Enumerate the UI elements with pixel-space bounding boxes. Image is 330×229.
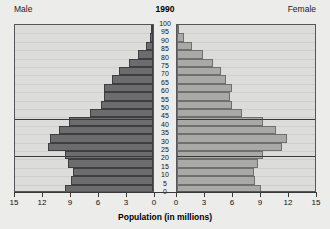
x-tick-mark [70,192,71,197]
bar-female-55-59 [177,92,230,100]
gridline [177,42,315,43]
age-tick-65: 65 [154,79,176,86]
x-tick-mark [176,192,177,197]
bar-female-85-89 [177,42,192,50]
x-tick-left-9: 9 [68,198,72,207]
x-tick-mark [316,192,317,197]
gridline [15,33,153,34]
x-tick-left-0: 0 [152,198,156,207]
bar-female-95-99 [177,25,179,33]
age-tick-10: 10 [154,171,176,178]
age-tick-100: 100 [154,20,176,27]
x-axis-title: Population (in millions) [0,212,330,222]
reference-line-age-44 [15,119,153,120]
x-tick-right-3: 3 [202,198,206,207]
bar-female-5-9 [177,176,255,184]
x-tick-left-15: 15 [10,198,19,207]
age-tick-55: 55 [154,96,176,103]
age-tick-60: 60 [154,87,176,94]
population-pyramid-figure: Male 1990 Female 10095908580757065605550… [0,0,330,229]
x-tick-mark [232,192,233,197]
age-tick-95: 95 [154,28,176,35]
bar-male-50-54 [101,101,153,109]
bar-male-95-99 [151,25,153,33]
x-tick-right-9: 9 [258,198,262,207]
bar-male-85-89 [146,42,153,50]
age-axis: 1009590858075706560555045403530252015105… [154,24,176,192]
bar-male-25-29 [48,143,153,151]
x-tick-mark [260,192,261,197]
age-tick-50: 50 [154,104,176,111]
bar-male-90-94 [150,33,153,41]
x-tick-right-6: 6 [230,198,234,207]
bar-female-35-39 [177,126,276,134]
bar-male-5-9 [71,176,153,184]
gridline [15,50,153,51]
bar-male-100+ [151,24,153,25]
bar-male-10-14 [73,168,153,176]
bar-male-65-69 [112,75,153,83]
age-tick-45: 45 [154,112,176,119]
bar-female-65-69 [177,75,226,83]
x-tick-mark [42,192,43,197]
female-plot-panel [176,24,316,192]
bar-female-0-4 [177,185,261,192]
reference-line-age-22 [15,156,153,157]
x-tick-mark [154,192,155,197]
age-tick-80: 80 [154,54,176,61]
x-tick-mark [204,192,205,197]
x-tick-mark [98,192,99,197]
age-tick-85: 85 [154,45,176,52]
bar-female-90-94 [177,33,184,41]
reference-line-age-44 [177,119,315,120]
reference-line-age-22 [177,156,315,157]
bar-male-0-4 [65,185,153,192]
gridline [15,42,153,43]
x-tick-left-6: 6 [96,198,100,207]
x-tick-mark [126,192,127,197]
bar-female-10-14 [177,168,254,176]
page-title: 1990 [0,4,330,14]
bar-male-70-74 [119,67,153,75]
age-tick-15: 15 [154,163,176,170]
age-tick-70: 70 [154,70,176,77]
female-legend-label: Female [288,4,316,14]
bar-female-80-84 [177,50,203,58]
x-tick-left-3: 3 [124,198,128,207]
age-tick-5: 5 [154,180,176,187]
age-tick-75: 75 [154,62,176,69]
x-tick-left-12: 12 [38,198,47,207]
chart-header: Male 1990 Female [0,4,330,18]
x-tick-mark [288,192,289,197]
age-tick-30: 30 [154,138,176,145]
bar-female-75-79 [177,59,213,67]
bar-male-60-64 [104,84,153,92]
x-axis-baseline [14,192,316,193]
x-tick-mark [14,192,15,197]
age-tick-25: 25 [154,146,176,153]
bar-female-70-74 [177,67,221,75]
x-tick-right-15: 15 [312,198,321,207]
x-tick-right-0: 0 [174,198,178,207]
age-tick-20: 20 [154,154,176,161]
bar-female-25-29 [177,143,282,151]
age-tick-35: 35 [154,129,176,136]
bar-male-75-79 [129,59,153,67]
bar-female-50-54 [177,101,232,109]
bar-male-35-39 [59,126,153,134]
bar-male-80-84 [138,50,153,58]
x-tick-right-12: 12 [284,198,293,207]
bar-female-15-19 [177,159,258,167]
bar-female-60-64 [177,84,232,92]
gridline [177,33,315,34]
bar-male-15-19 [68,159,153,167]
bar-female-45-49 [177,109,242,117]
bar-male-30-34 [50,134,153,142]
bar-female-100+ [177,24,179,25]
age-tick-40: 40 [154,121,176,128]
x-axis: 1512963003691215 [14,192,316,199]
male-plot-panel [14,24,154,192]
bar-male-55-59 [104,92,153,100]
bar-male-45-49 [90,109,153,117]
age-tick-90: 90 [154,37,176,44]
